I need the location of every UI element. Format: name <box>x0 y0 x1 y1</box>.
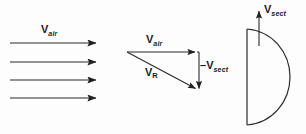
label-vair-freestream-subscript: air <box>48 30 57 37</box>
label-vair-triangle: Vair <box>146 34 163 45</box>
label-vr-subscript: R <box>152 71 157 80</box>
label-vsect-positive-subscript: sect <box>271 10 286 17</box>
section-arc-edge <box>247 29 290 125</box>
triangle-vr-vector <box>127 52 196 89</box>
figure-root: Vair Vair VR –Vsect Vsect <box>0 0 306 134</box>
velocity-triangle-group <box>127 52 199 89</box>
label-vair-triangle-subscript: air <box>153 40 162 47</box>
label-vsect-negative-subscript: sect <box>213 66 228 73</box>
label-vsect-negative: –Vsect <box>200 60 228 71</box>
section-shape-group <box>247 11 290 125</box>
label-vair-freestream: Vair <box>41 24 58 35</box>
label-vr-resultant: VR <box>145 67 158 78</box>
freestream-arrow-group <box>10 43 96 98</box>
label-vsect-positive: Vsect <box>264 4 286 15</box>
